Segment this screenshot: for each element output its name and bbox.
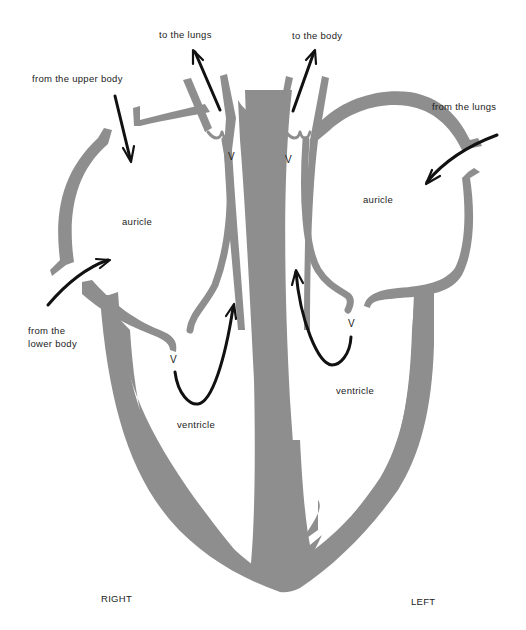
label-side-right: RIGHT [101, 593, 132, 604]
right-auricle-wall [50, 104, 230, 352]
label-right-auricle: auricle [122, 216, 152, 227]
label-from-the: from the [28, 325, 65, 336]
label-left-ventricle: ventricle [336, 385, 374, 396]
heart-diagram: to the lungs to the body from the upper … [0, 0, 526, 630]
arrow-right-ventricle-loop [175, 304, 236, 404]
label-valve-right-av: V [170, 354, 177, 365]
label-valve-aortic: V [285, 154, 292, 165]
arrow-to-body [293, 50, 316, 111]
label-to-the-body: to the body [292, 30, 342, 41]
label-valve-pulmonary: V [228, 151, 235, 162]
left-auricle-wall [305, 140, 481, 310]
label-to-the-lungs: to the lungs [159, 29, 212, 40]
label-lower-body: lower body [28, 338, 77, 349]
label-from-lungs: from the lungs [432, 101, 496, 112]
arrow-left-ventricle-loop [292, 270, 351, 365]
arrow-from-upper-body [115, 96, 134, 162]
label-from-upper-body: from the upper body [32, 73, 123, 84]
label-right-ventricle: ventricle [177, 419, 215, 430]
label-valve-left-av: V [348, 318, 355, 329]
label-side-left: LEFT [411, 596, 435, 607]
label-left-auricle: auricle [363, 194, 393, 205]
